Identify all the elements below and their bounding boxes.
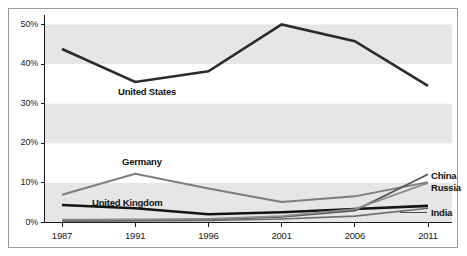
y-tick-label-0: 0% (10, 217, 38, 227)
chart-plot-svg (0, 0, 467, 256)
series-label-united-kingdom: United Kingdom (92, 197, 163, 208)
y-tick-label-5: 50% (10, 19, 38, 29)
chart-band-1 (44, 104, 452, 144)
x-tick-label-3: 2001 (262, 230, 302, 241)
x-tick-label-4: 2006 (335, 230, 375, 241)
x-tick-label-1: 1991 (115, 230, 155, 241)
series-label-china: China (431, 170, 456, 181)
y-tick-label-3: 30% (10, 98, 38, 108)
series-label-india: India (431, 207, 452, 218)
chart-band-0 (44, 25, 452, 65)
series-label-russia: Russia (431, 182, 461, 193)
series-label-united-states: United States (118, 86, 176, 97)
x-tick-label-0: 1987 (42, 230, 82, 241)
series-label-germany: Germany (122, 156, 162, 167)
y-tick-label-4: 40% (10, 58, 38, 68)
y-tick-label-1: 10% (10, 177, 38, 187)
x-tick-label-2: 1996 (188, 230, 228, 241)
x-tick-label-5: 2011 (408, 230, 448, 241)
y-tick-label-2: 20% (10, 137, 38, 147)
chart-container: 0%10%20%30%40%50% 1987199119962001200620… (0, 0, 467, 256)
